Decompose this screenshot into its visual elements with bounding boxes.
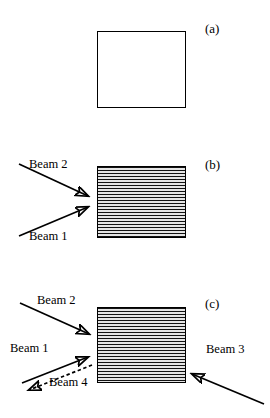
beam-label-b-beam-2: Beam 2 [29,158,68,171]
beam-label-c-beam-4: Beam 4 [49,376,88,389]
panel-label-c: (c) [205,297,219,310]
panel-c: (c) Beam 2 Beam 1 Beam 4 Beam 3 [0,268,270,418]
sample-square-c [97,307,186,383]
figure-canvas: (a) (b) Beam 2 Beam 1 (c) Beam 2 Beam 1 … [0,0,270,418]
beam-label-c-beam-3: Beam 3 [206,343,245,356]
panel-label-a: (a) [205,22,219,35]
sample-square-a [97,31,186,108]
panel-a: (a) [0,0,270,140]
panel-label-b: (b) [205,158,220,171]
beam-label-c-beam-2: Beam 2 [37,294,76,307]
beam-label-b-beam-1: Beam 1 [29,230,68,243]
beam-label-c-beam-1: Beam 1 [10,342,49,355]
panel-b: (b) Beam 2 Beam 1 [0,140,270,268]
sample-square-b [97,166,186,238]
